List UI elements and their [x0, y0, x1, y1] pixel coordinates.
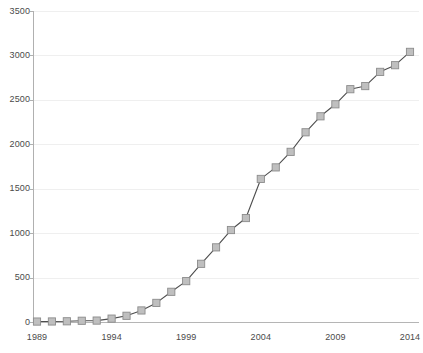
data-point-2002	[227, 226, 234, 233]
data-point-2001	[212, 244, 219, 251]
data-point-2014	[406, 48, 413, 55]
line-chart: 0500100015002000250030003500 19891994199…	[0, 0, 423, 353]
data-point-2009	[332, 101, 339, 108]
data-point-2006	[287, 148, 294, 155]
data-point-2011	[362, 82, 369, 89]
data-point-1999	[183, 278, 190, 285]
data-point-2013	[391, 62, 398, 69]
data-point-2007	[302, 129, 309, 136]
data-point-2012	[377, 68, 384, 75]
data-point-2005	[272, 164, 279, 171]
data-point-1995	[123, 312, 130, 319]
data-point-2003	[242, 214, 249, 221]
data-point-1991	[63, 318, 70, 325]
data-point-1990	[48, 318, 55, 325]
data-point-2004	[257, 175, 264, 182]
marker-group	[33, 48, 413, 325]
data-point-2000	[198, 260, 205, 267]
data-point-1996	[138, 307, 145, 314]
data-point-1994	[108, 315, 115, 322]
data-point-1989	[33, 318, 40, 325]
data-point-1998	[168, 288, 175, 295]
data-point-1993	[93, 317, 100, 324]
data-point-2010	[347, 86, 354, 93]
data-point-1997	[153, 299, 160, 306]
data-point-1992	[78, 317, 85, 324]
data-point-2008	[317, 113, 324, 120]
data-series	[0, 0, 423, 353]
